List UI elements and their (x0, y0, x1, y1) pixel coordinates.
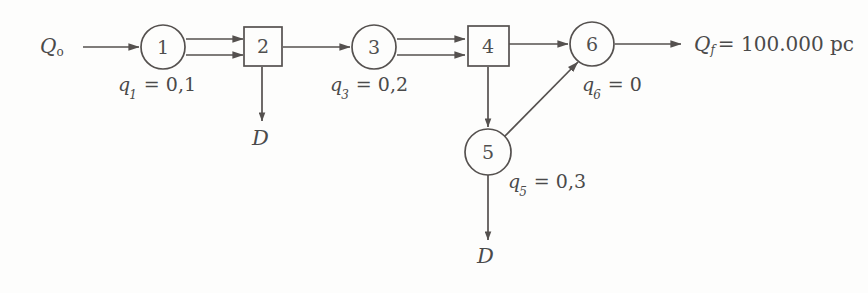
node-4-label: 4 (482, 35, 494, 57)
inflow-symbol: Q (40, 34, 56, 58)
q6-rest: = 0 (602, 73, 642, 95)
demand-label-node2: D (252, 128, 269, 149)
outflow-subscript: f (710, 43, 714, 57)
node-5-label: 5 (482, 141, 494, 163)
q3-sub: 3 (341, 88, 349, 102)
q1-label: q1 = 0,1 (118, 75, 196, 98)
q3-rest: = 0,2 (350, 73, 408, 95)
demand-label-node5: D (477, 246, 494, 267)
q5-sub: 5 (519, 185, 527, 199)
outflow-label: Qf= 100.000 pc (694, 34, 854, 54)
q6-sub: 6 (593, 88, 601, 102)
inflow-subscript: o (56, 45, 63, 59)
edge-5-to-6 (504, 62, 578, 137)
q1-sub: 1 (129, 88, 137, 102)
node-1-label: 1 (157, 36, 169, 58)
q6-label: q6 = 0 (582, 75, 642, 98)
inflow-label: Qo (40, 36, 64, 56)
node-6-label: 6 (586, 33, 598, 55)
outflow-symbol: Q (694, 32, 710, 56)
q5-label: q5 = 0,3 (508, 172, 586, 195)
outflow-value: = 100.000 pc (718, 32, 854, 56)
node-2-label: 2 (257, 35, 269, 57)
q5-rest: = 0,3 (528, 170, 586, 192)
q1-rest: = 0,1 (138, 73, 196, 95)
q3-label: q3 = 0,2 (330, 75, 408, 98)
diagram-canvas: 1 2 3 4 5 6 Qo Qf= 100.000 pc q1 = 0,1 q… (0, 0, 868, 293)
node-3-label: 3 (368, 36, 380, 58)
